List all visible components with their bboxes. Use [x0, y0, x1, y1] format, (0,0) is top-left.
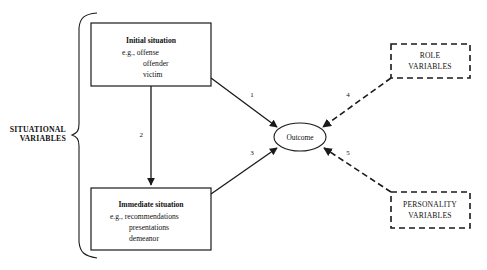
- edge-4-role-to-outcome: 4: [323, 78, 391, 127]
- edge-3-line: [211, 148, 277, 194]
- immediate-situation-title: Immediate situation: [118, 200, 184, 209]
- immediate-situation-line-3: demeanor: [129, 234, 159, 243]
- edge-2-label: 2: [140, 131, 144, 139]
- edge-4-line: [323, 78, 391, 127]
- role-variables-box: [391, 44, 470, 78]
- immediate-situation-line-2: presentations: [129, 223, 169, 232]
- edge-1-line: [211, 78, 277, 127]
- edge-5-line: [324, 148, 391, 192]
- initial-situation-line-2: offender: [143, 59, 169, 68]
- edge-2-initial-to-immediate: 2: [140, 86, 152, 185]
- node-personality-variables[interactable]: PERSONALITY VARIABLES: [391, 192, 470, 228]
- initial-situation-title: Initial situation: [126, 36, 177, 45]
- personality-variables-label-line1: PERSONALITY: [403, 200, 457, 209]
- edge-5-personality-to-outcome: 5: [324, 148, 391, 192]
- initial-situation-line-1: e.g., offense: [122, 48, 160, 57]
- node-initial-situation[interactable]: Initial situation e.g., offense offender…: [91, 23, 211, 86]
- initial-situation-line-3: victim: [143, 70, 162, 79]
- situational-variables-label-line2: VARIABLES: [20, 134, 66, 143]
- node-outcome[interactable]: Outcome: [274, 123, 326, 151]
- node-immediate-situation[interactable]: Immediate situation e.g., recommendation…: [91, 188, 211, 250]
- diagram-canvas: SITUATIONAL VARIABLES Initial situation …: [0, 0, 487, 270]
- outcome-label: Outcome: [286, 133, 314, 142]
- node-role-variables[interactable]: ROLE VARIABLES: [391, 44, 470, 78]
- immediate-situation-line-1: e.g., recommendations: [110, 212, 179, 221]
- situational-variables-label-line1: SITUATIONAL: [10, 125, 66, 134]
- role-variables-label-line2: VARIABLES: [408, 62, 451, 71]
- role-variables-label-line1: ROLE: [420, 51, 441, 60]
- edge-3-label: 3: [250, 149, 254, 157]
- edge-1-initial-to-outcome: 1: [211, 78, 277, 127]
- edge-1-label: 1: [250, 91, 254, 99]
- diagram-container: SITUATIONAL VARIABLES Initial situation …: [0, 0, 487, 270]
- edge-5-label: 5: [346, 149, 350, 157]
- edge-3-immediate-to-outcome: 3: [211, 148, 277, 194]
- edge-4-label: 4: [346, 91, 350, 99]
- personality-variables-label-line2: VARIABLES: [408, 211, 451, 220]
- personality-variables-box: [391, 192, 470, 228]
- situational-variables-group: SITUATIONAL VARIABLES: [10, 13, 97, 258]
